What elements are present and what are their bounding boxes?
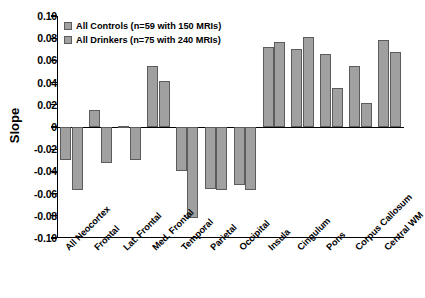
x-axis-tick-label: Pons [324,230,347,253]
x-axis-tick-label: Frontal [93,224,122,253]
legend-swatch-drinkers [64,36,72,44]
legend-item-controls: All Controls (n=59 with 150 MRIs) [64,19,221,32]
x-axis-tick-label: Occipital [237,218,271,252]
x-axis-tick-label: Insula [266,227,292,253]
legend-label-controls: All Controls (n=59 with 150 MRIs) [76,21,221,31]
legend-swatch-controls [64,22,72,30]
legend-label-drinkers: All Drinkers (n=75 with 240 MRIs) [76,35,221,45]
legend-item-drinkers: All Drinkers (n=75 with 240 MRIs) [64,33,221,46]
x-axis-tick-label: Parietal [208,222,238,252]
chart-legend: All Controls (n=59 with 150 MRIs) All Dr… [64,19,221,47]
